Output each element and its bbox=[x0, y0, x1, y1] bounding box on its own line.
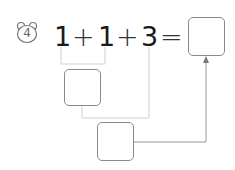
partial-sum-box-1[interactable] bbox=[64, 69, 101, 106]
bear-badge: 4 bbox=[16, 21, 38, 44]
answer-box[interactable] bbox=[188, 17, 225, 56]
problem-number: 4 bbox=[16, 26, 38, 40]
operand-1: 1 bbox=[54, 23, 71, 50]
plus-sign-1: + bbox=[72, 23, 95, 50]
plus-sign-2: + bbox=[116, 23, 139, 50]
operand-2: 1 bbox=[98, 23, 115, 50]
equals-sign: = bbox=[160, 23, 183, 50]
operand-3: 3 bbox=[141, 23, 158, 50]
partial-sum-box-2[interactable] bbox=[97, 122, 134, 161]
arrow-head-icon bbox=[203, 56, 209, 63]
